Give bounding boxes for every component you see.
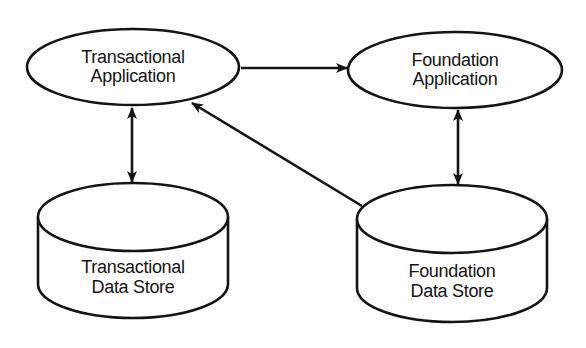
node-label-line2: Data Store (91, 277, 174, 297)
cylinder-top (357, 185, 547, 253)
cylinder-top (38, 183, 228, 251)
node-label-line1: Foundation (408, 261, 495, 281)
node-transactional-application: Transactional Application (27, 29, 239, 105)
node-label-line2: Data Store (410, 281, 493, 301)
edge-foundation-store-to-transactional-app (192, 103, 362, 206)
node-transactional-data-store: Transactional Data Store (38, 183, 228, 318)
node-label-line1: Foundation (411, 50, 498, 70)
node-label-line1: Transactional (81, 257, 185, 277)
node-foundation-data-store: Foundation Data Store (357, 185, 547, 322)
diagram-canvas: Transactional Application Foundation App… (0, 0, 586, 348)
node-label-line1: Transactional (81, 47, 185, 67)
node-label-line2: Application (413, 69, 498, 89)
node-label-line2: Application (91, 66, 176, 86)
node-foundation-application: Foundation Application (348, 32, 562, 108)
